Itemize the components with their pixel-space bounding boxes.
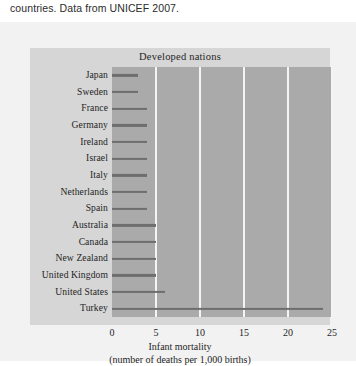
y-axis-label-netherlands: Netherlands [30, 184, 108, 201]
y-axis-label-turkey: Turkey [30, 300, 108, 317]
y-axis-label-france: France [30, 100, 108, 117]
x-tick-20: 20 [283, 327, 293, 338]
chart-title: Developed nations [30, 51, 330, 62]
y-axis-label-ireland: Ireland [30, 134, 108, 151]
bar-row [112, 234, 332, 251]
bar [112, 108, 147, 110]
y-axis-label-spain: Spain [30, 200, 108, 217]
y-axis-label-new-zealand: New Zealand [30, 250, 108, 267]
y-axis-label-united-states: United States [30, 284, 108, 301]
bar-row [112, 200, 332, 217]
bar-row [112, 184, 332, 201]
x-tick-15: 15 [239, 327, 249, 338]
bar [112, 224, 156, 226]
bar-row [112, 67, 332, 84]
bar [112, 74, 138, 76]
y-axis-label-israel: Israel [30, 150, 108, 167]
x-tick-10: 10 [195, 327, 205, 338]
x-tick-25: 25 [327, 327, 337, 338]
x-axis-title: Infant mortality (number of deaths per 1… [30, 341, 330, 366]
bar [112, 291, 165, 293]
bar-row [112, 267, 332, 284]
bar-row [112, 217, 332, 234]
bar-row [112, 150, 332, 167]
figure-caption: countries. Data from UNICEF 2007. [10, 2, 340, 15]
y-axis-category-labels: JapanSwedenFranceGermanyIrelandIsraelIta… [30, 67, 108, 317]
bar [112, 241, 156, 243]
y-axis-label-sweden: Sweden [30, 84, 108, 101]
figure-card: Developed nations JapanSwedenFranceGerma… [0, 22, 356, 361]
bar-row [112, 100, 332, 117]
y-axis-label-australia: Australia [30, 217, 108, 234]
bar [112, 141, 147, 143]
bar-row [112, 84, 332, 101]
plot-area [112, 67, 332, 317]
bar [112, 191, 147, 193]
x-tick-0: 0 [110, 327, 115, 338]
y-axis-label-japan: Japan [30, 67, 108, 84]
y-axis-label-italy: Italy [30, 167, 108, 184]
x-axis-title-main: Infant mortality [30, 341, 330, 354]
bar [112, 174, 147, 176]
bar [112, 91, 138, 93]
x-tick-5: 5 [154, 327, 159, 338]
bar [112, 274, 156, 276]
bar-row [112, 250, 332, 267]
bar [112, 208, 147, 210]
bar [112, 124, 147, 126]
bar-row [112, 300, 332, 317]
x-axis-title-sub: (number of deaths per 1,000 births) [30, 354, 330, 366]
chart-panel: Developed nations JapanSwedenFranceGerma… [30, 48, 330, 325]
y-axis-label-canada: Canada [30, 234, 108, 251]
bar-row [112, 167, 332, 184]
y-axis-label-united-kingdom: United Kingdom [30, 267, 108, 284]
bar-row [112, 117, 332, 134]
bar [112, 158, 147, 160]
bar-row [112, 134, 332, 151]
bar [112, 258, 156, 260]
y-axis-label-germany: Germany [30, 117, 108, 134]
bar [112, 308, 323, 310]
bar-row [112, 284, 332, 301]
